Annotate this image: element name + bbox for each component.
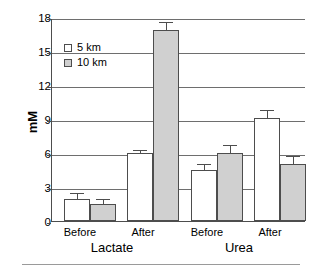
legend-item-5km: 5 km: [64, 41, 107, 54]
errorbar-lactate-before-5km: [64, 190, 90, 199]
x-tick-label-urea-after: After: [240, 226, 300, 238]
x-group-label-lactate: Lactate: [82, 241, 142, 255]
bottom-divider: [22, 264, 300, 265]
legend-swatch-10km-icon: [64, 59, 72, 67]
bar-urea-before-5km: [191, 170, 217, 221]
bar-urea-before-10km: [217, 153, 243, 221]
errorbar-lactate-before-10km: [90, 197, 116, 204]
errorbar-lactate-after-5km: [127, 147, 153, 153]
errorbar-urea-after-5km: [254, 107, 280, 118]
legend-label-10km: 10 km: [77, 56, 107, 69]
legend-swatch-5km-icon: [64, 44, 72, 52]
legend-label-5km: 5 km: [77, 41, 101, 54]
errorbar-urea-before-10km: [217, 142, 243, 153]
x-tick-label-lactate-before: Before: [50, 226, 110, 238]
errorbar-urea-before-5km: [191, 161, 217, 170]
x-tick-label-lactate-after: After: [113, 226, 173, 238]
legend-item-10km: 10 km: [64, 56, 107, 69]
y-tick-mark-0: [47, 223, 51, 224]
errorbar-lactate-after-10km: [153, 18, 179, 30]
bar-lactate-after-10km: [153, 30, 179, 221]
x-group-label-urea: Urea: [209, 241, 269, 255]
bar-urea-after-5km: [254, 118, 280, 221]
bar-lactate-before-5km: [64, 199, 90, 221]
errorbar-urea-after-10km: [280, 152, 306, 164]
bar-urea-after-10km: [280, 164, 306, 221]
legend: 5 km 10 km: [64, 41, 107, 71]
bar-chart-figure: mM 18 15 12 9 6 3 0: [0, 0, 320, 274]
x-tick-label-urea-before: Before: [177, 226, 237, 238]
bar-lactate-before-10km: [90, 204, 116, 221]
bar-lactate-after-5km: [127, 153, 153, 221]
